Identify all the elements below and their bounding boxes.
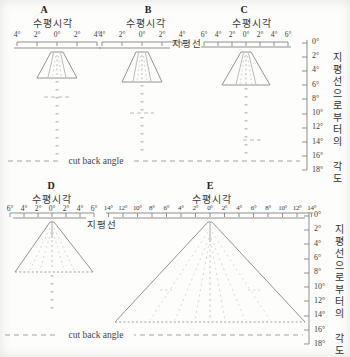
tick-label: 4° [7, 30, 27, 39]
tick-label: 4° [267, 30, 281, 39]
panel-b-title: B [133, 5, 163, 15]
tick-label: 6° [281, 30, 295, 39]
tick-label: 4° [232, 204, 247, 213]
tick-label: 6° [3, 204, 17, 213]
tick-label: 8° [261, 204, 276, 213]
bottom-cutback-label: cut back angle [58, 329, 134, 341]
panel-d-road-shape [15, 222, 93, 314]
bottom-horizon-label: 지평선 [85, 220, 119, 231]
top-vertical-axis [302, 40, 307, 170]
panel-c-road-shape [222, 52, 270, 158]
tick-label: 14° [101, 204, 116, 213]
tick-label: 4° [174, 204, 189, 213]
tick-label: 8° [145, 204, 160, 213]
tick-label: 4° [17, 204, 31, 213]
tick-label: 4° [73, 204, 87, 213]
tick-label: 0° [47, 30, 67, 39]
top-horizon-label: 지평선 [170, 39, 204, 50]
tick-label: 2° [112, 30, 132, 39]
panel-b-tick-labels: 4°2°0°2°4° [92, 30, 192, 39]
panel-d-title: D [36, 181, 66, 191]
panel-d-tick-labels: 6°4°2°0°2°4°6° [3, 204, 101, 213]
bottom-vertical-axis [304, 212, 309, 344]
panel-e-title: E [195, 181, 225, 191]
tick-label: 6° [197, 30, 211, 39]
panel-c-tick-labels: 6°4°2°0°2°4°6° [197, 30, 295, 39]
tick-label: 4° [172, 30, 192, 39]
tick-label: 2° [225, 30, 239, 39]
tick-label: 2° [152, 30, 172, 39]
panel-a-angle-label: 수평시각 [13, 18, 93, 29]
panel-e-ruler [106, 213, 313, 218]
tick-label: 2° [67, 30, 87, 39]
tick-label: 0° [239, 30, 253, 39]
tick-label: 0° [312, 38, 336, 46]
tick-label: 10° [275, 204, 290, 213]
tick-label: 0° [45, 204, 59, 213]
tick-label: 0° [203, 204, 218, 213]
top-cutback-label: cut back angle [58, 155, 134, 167]
panel-c-angle-label: 수평시각 [210, 18, 294, 29]
tick-label: 6° [159, 204, 174, 213]
tick-label: 2° [59, 204, 73, 213]
tick-label: 2° [31, 204, 45, 213]
tick-label: 0° [132, 30, 152, 39]
tick-label: 4° [211, 30, 225, 39]
panel-b-road-shape [122, 52, 162, 152]
tick-label: 6° [246, 204, 261, 213]
panel-b-angle-label: 수평시각 [106, 18, 186, 29]
diagram-canvas [0, 0, 350, 357]
figure-visual-angle-diagram: A 수평시각 4°2°0°2°4° B 수평시각 4°2°0°2°4° C 수평… [0, 0, 350, 357]
panel-a-title: A [29, 5, 59, 15]
panel-c-ruler [201, 42, 291, 47]
tick-label: 2° [253, 30, 267, 39]
bottom-vertical-axis-title: 지평선으로부터의 각도 [332, 224, 344, 346]
panel-a-ruler [14, 42, 101, 48]
tick-label: 2° [217, 204, 232, 213]
tick-label: 10° [130, 204, 145, 213]
tick-label: 2° [188, 204, 203, 213]
panel-a-road-shape [37, 52, 77, 158]
panel-e-road-shape [115, 222, 305, 322]
tick-label: 0° [314, 211, 338, 219]
tick-label: 12° [290, 204, 305, 213]
tick-label: 6° [87, 204, 101, 213]
panel-e-tick-labels: 14°12°10°8°6°4°2°0°2°4°6°8°10°12°14° [101, 204, 319, 213]
tick-label: 4° [92, 30, 112, 39]
panel-d-ruler [10, 213, 94, 218]
tick-label: 12° [116, 204, 131, 213]
top-vertical-axis-title: 지평선으로부터의 각도 [330, 52, 342, 174]
panel-c-title: C [229, 5, 259, 15]
tick-label: 2° [27, 30, 47, 39]
